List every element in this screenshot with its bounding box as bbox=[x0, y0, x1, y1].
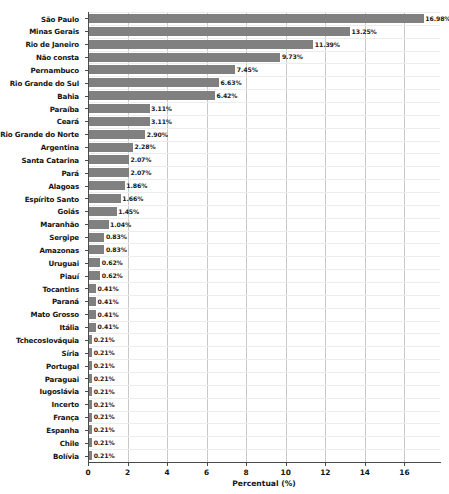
category-label: Paraná bbox=[52, 297, 79, 306]
x-tick bbox=[207, 462, 208, 466]
bar[interactable] bbox=[88, 14, 424, 23]
bar-value-label: 0.83% bbox=[106, 246, 127, 253]
x-tick-label: 12 bbox=[320, 468, 330, 477]
category-label: Espanha bbox=[46, 426, 79, 435]
bar-value-label: 13.25% bbox=[352, 28, 377, 35]
gridline-y bbox=[88, 436, 440, 437]
plot-area: 0.21%0.21%0.21%0.21%0.21%0.21%0.21%0.21%… bbox=[88, 12, 440, 462]
gridline-y bbox=[88, 243, 440, 244]
category-label: Rio de Janeiro bbox=[25, 40, 79, 49]
bar-value-label: 0.41% bbox=[98, 298, 119, 305]
bar[interactable] bbox=[88, 78, 219, 87]
bar-value-label: 16.98% bbox=[425, 15, 449, 22]
category-label: Argentina bbox=[41, 143, 79, 152]
gridline-y bbox=[88, 346, 440, 347]
gridline-y bbox=[88, 115, 440, 116]
bar[interactable] bbox=[88, 143, 133, 152]
category-label: Paraguai bbox=[45, 375, 79, 384]
x-tick-label: 10 bbox=[281, 468, 291, 477]
bar[interactable] bbox=[88, 310, 96, 319]
category-label: Goiás bbox=[58, 207, 79, 216]
bar-value-label: 0.21% bbox=[94, 362, 115, 369]
bar[interactable] bbox=[88, 258, 100, 267]
bar-value-label: 2.07% bbox=[130, 169, 151, 176]
category-label: Tocantins bbox=[42, 285, 79, 294]
gridline-y bbox=[88, 449, 440, 450]
bar-value-label: 2.90% bbox=[147, 131, 168, 138]
x-tick-label: 14 bbox=[360, 468, 370, 477]
bar-value-label: 0.21% bbox=[94, 426, 115, 433]
x-tick bbox=[365, 462, 366, 466]
gridline-y bbox=[88, 63, 440, 64]
bar[interactable] bbox=[88, 130, 145, 139]
bar[interactable] bbox=[88, 104, 150, 113]
gridline-y bbox=[88, 231, 440, 232]
category-label: Portugal bbox=[46, 362, 79, 371]
category-label: Maranhão bbox=[40, 220, 79, 229]
category-label: Piauí bbox=[60, 272, 79, 281]
category-label: Síria bbox=[61, 349, 79, 358]
category-label: Minas Gerais bbox=[29, 27, 79, 36]
x-tick-label: 4 bbox=[165, 468, 170, 477]
gridline-y bbox=[88, 192, 440, 193]
bar[interactable] bbox=[88, 181, 125, 190]
bar[interactable] bbox=[88, 168, 129, 177]
gridline-y bbox=[88, 153, 440, 154]
category-label: Bahia bbox=[57, 92, 79, 101]
bar[interactable] bbox=[88, 284, 96, 293]
category-axis-labels: BolíviaChileEspanhaFrançaIncertoIugosláv… bbox=[0, 12, 84, 462]
x-tick-label: 6 bbox=[204, 468, 209, 477]
bar[interactable] bbox=[88, 117, 150, 126]
x-tick-label: 16 bbox=[399, 468, 409, 477]
category-label: Santa Catarina bbox=[22, 156, 79, 165]
bar-value-label: 0.21% bbox=[94, 401, 115, 408]
category-label: Chile bbox=[60, 439, 79, 448]
bar[interactable] bbox=[88, 207, 117, 216]
gridline-y bbox=[88, 385, 440, 386]
bar-value-label: 0.62% bbox=[102, 272, 123, 279]
gridline-y bbox=[88, 256, 440, 257]
gridline-y bbox=[88, 308, 440, 309]
bar-value-label: 0.41% bbox=[98, 311, 119, 318]
bar[interactable] bbox=[88, 220, 109, 229]
x-tick-label: 8 bbox=[244, 468, 249, 477]
bar-value-label: 1.66% bbox=[122, 195, 143, 202]
gridline-y bbox=[88, 102, 440, 103]
x-axis-line bbox=[88, 462, 441, 463]
bar[interactable] bbox=[88, 27, 350, 36]
bar-value-label: 0.21% bbox=[94, 413, 115, 420]
bar[interactable] bbox=[88, 245, 104, 254]
bar[interactable] bbox=[88, 323, 96, 332]
bar-value-label: 0.21% bbox=[94, 452, 115, 459]
gridline-y bbox=[88, 38, 440, 39]
bar[interactable] bbox=[88, 155, 129, 164]
bar[interactable] bbox=[88, 271, 100, 280]
x-axis-title: Percentual (%) bbox=[88, 479, 440, 488]
bar-value-label: 2.28% bbox=[135, 143, 156, 150]
bar[interactable] bbox=[88, 233, 104, 242]
bar[interactable] bbox=[88, 65, 235, 74]
gridline-y bbox=[88, 128, 440, 129]
bar[interactable] bbox=[88, 53, 280, 62]
category-label: Iugoslávia bbox=[40, 387, 79, 396]
gridline-x-8 bbox=[246, 12, 247, 462]
bar[interactable] bbox=[88, 194, 121, 203]
category-label: Mato Grosso bbox=[31, 310, 79, 319]
category-label: Bolívia bbox=[53, 452, 79, 461]
category-label: Não consta bbox=[36, 53, 79, 62]
y-axis-line bbox=[88, 12, 89, 463]
x-tick bbox=[167, 462, 168, 466]
category-label: Sergipe bbox=[49, 233, 79, 242]
gridline-y bbox=[88, 76, 440, 77]
gridline-x-16 bbox=[404, 12, 405, 462]
bar[interactable] bbox=[88, 91, 215, 100]
bar-value-label: 6.63% bbox=[221, 79, 242, 86]
gridline-y bbox=[88, 25, 440, 26]
bar[interactable] bbox=[88, 297, 96, 306]
bar[interactable] bbox=[88, 40, 313, 49]
bar-value-label: 3.11% bbox=[151, 118, 172, 125]
bar-value-label: 1.86% bbox=[126, 182, 147, 189]
category-label: Rio Grande do Norte bbox=[0, 130, 79, 139]
gridline-y bbox=[88, 372, 440, 373]
bar-value-label: 2.07% bbox=[130, 156, 151, 163]
